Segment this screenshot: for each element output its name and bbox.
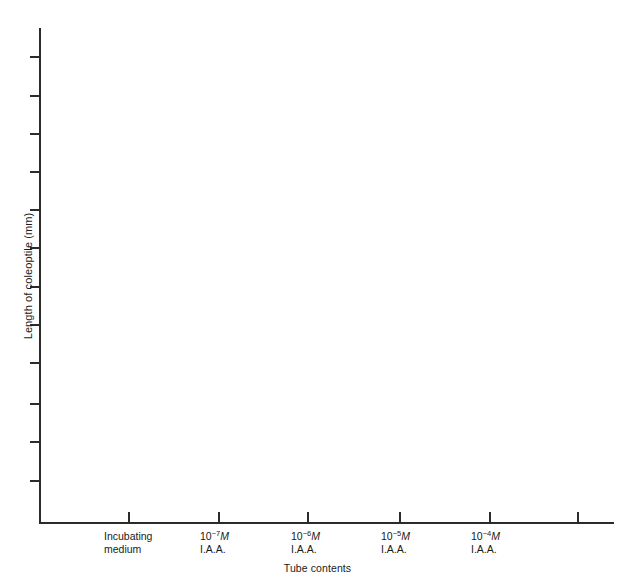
- x-axis-tick: [489, 512, 491, 523]
- x-axis-line: [39, 522, 614, 524]
- y-axis-title: Length of coleoptile (mm): [22, 156, 34, 396]
- x-axis-tick: [577, 512, 579, 523]
- x-axis-label-line1: 10−6M: [291, 530, 320, 543]
- x-axis-label-iaa-1e-4: 10−4MI.A.A.: [471, 530, 500, 556]
- x-axis-label-line1: Incubating: [104, 530, 152, 543]
- x-axis-label-iaa-1e-5: 10−5MI.A.A.: [381, 530, 410, 556]
- x-axis-label-line1: 10−4M: [471, 530, 500, 543]
- plot-area: [41, 28, 614, 522]
- x-axis-tick: [399, 512, 401, 523]
- y-axis-tick: [30, 480, 40, 482]
- x-axis-label-line2: I.A.A.: [471, 543, 500, 556]
- y-axis-tick: [30, 56, 40, 58]
- x-axis-label-line1: 10−7M: [200, 530, 229, 543]
- x-axis-label-line2: I.A.A.: [291, 543, 320, 556]
- y-axis-tick: [30, 441, 40, 443]
- x-axis-tick: [307, 512, 309, 523]
- y-axis-tick: [30, 133, 40, 135]
- y-axis-tick: [30, 403, 40, 405]
- x-axis-label-line2: I.A.A.: [200, 543, 229, 556]
- x-axis-label-line1: 10−5M: [381, 530, 410, 543]
- x-axis-tick: [128, 512, 130, 523]
- x-axis-tick: [218, 512, 220, 523]
- x-axis-label-incubating-medium: Incubatingmedium: [104, 530, 152, 556]
- x-axis-title: Tube contents: [0, 562, 635, 574]
- x-axis-label-line2: medium: [104, 543, 152, 556]
- x-axis-label-line2: I.A.A.: [381, 543, 410, 556]
- x-axis-label-iaa-1e-6: 10−6MI.A.A.: [291, 530, 320, 556]
- x-axis-label-iaa-1e-7: 10−7MI.A.A.: [200, 530, 229, 556]
- chart-canvas: Incubatingmedium10−7MI.A.A.10−6MI.A.A.10…: [0, 0, 635, 583]
- y-axis-tick: [30, 95, 40, 97]
